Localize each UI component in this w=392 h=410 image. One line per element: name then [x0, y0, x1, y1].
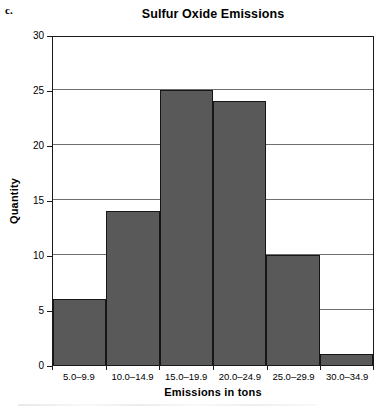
bar — [106, 211, 159, 365]
y-axis-tick-label: 5 — [38, 306, 47, 316]
x-axis-tick-label: 10.0–14.9 — [106, 366, 160, 382]
y-axis-tick-label: 25 — [33, 86, 47, 96]
x-axis-tick-label: 20.0–24.9 — [213, 366, 267, 382]
x-axis-end-tick — [373, 366, 374, 370]
x-axis-tick-mark — [213, 366, 214, 370]
y-axis-tick-label: 15 — [33, 196, 47, 206]
x-axis-tick-mark — [320, 366, 321, 370]
bar — [266, 255, 319, 365]
x-axis-tick: 25.0–29.9 — [267, 366, 321, 382]
y-axis-tick-group: 051015202530 — [0, 36, 52, 366]
x-axis-tick-label: 15.0–19.9 — [159, 366, 213, 382]
x-axis-tick-mark — [267, 366, 268, 370]
bar — [160, 90, 213, 365]
x-axis-tick: 5.0–9.9 — [52, 366, 106, 382]
figure-label: c. — [5, 4, 13, 16]
y-axis-tick-label: 20 — [33, 141, 47, 151]
x-axis-title: Emissions in tons — [52, 386, 374, 399]
x-axis-tick: 10.0–14.9 — [106, 366, 160, 382]
bar-slot — [213, 37, 266, 365]
y-axis-tick-label: 30 — [33, 31, 47, 41]
bar — [53, 299, 106, 365]
x-axis-tick: 15.0–19.9 — [159, 366, 213, 382]
x-axis-tick-mark — [106, 366, 107, 370]
bar-slot — [160, 37, 213, 365]
bar-slot — [53, 37, 106, 365]
bar — [213, 101, 266, 365]
x-axis-tick: 20.0–24.9 — [213, 366, 267, 382]
y-axis-tick-label: 0 — [38, 361, 47, 371]
page-edge-artifact — [18, 404, 318, 406]
bar-series — [53, 37, 373, 365]
bar-slot — [106, 37, 159, 365]
bar-slot — [266, 37, 319, 365]
x-axis-tick-mark — [52, 366, 53, 370]
bar-slot — [320, 37, 373, 365]
x-axis-tick: 30.0–34.9 — [320, 366, 374, 382]
chart-plot-area — [52, 36, 374, 366]
bar — [320, 354, 373, 365]
y-axis-tick-label: 10 — [33, 251, 47, 261]
x-axis-tick-label: 30.0–34.9 — [320, 366, 374, 382]
x-axis-tick-group: 5.0–9.910.0–14.915.0–19.920.0–24.925.0–2… — [52, 366, 374, 382]
x-axis-tick-mark — [159, 366, 160, 370]
x-axis-tick-label: 5.0–9.9 — [52, 366, 106, 382]
x-axis-tick-label: 25.0–29.9 — [267, 366, 321, 382]
chart-title: Sulfur Oxide Emissions — [52, 7, 374, 21]
